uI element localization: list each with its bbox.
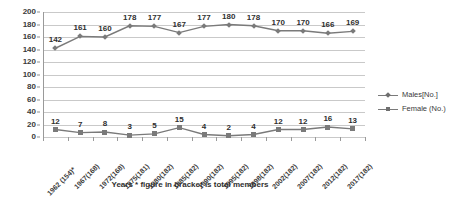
plot-area: 1421611601781771671771801781701701661691…	[43, 12, 365, 137]
data-label: 15	[175, 116, 184, 124]
data-label: 7	[78, 121, 82, 129]
data-label: 16	[323, 115, 332, 123]
line-chart: 020406080100120140160180200 142161160178…	[0, 0, 458, 198]
y-axis-tick-mark	[37, 24, 40, 25]
data-label: 13	[348, 117, 357, 125]
data-label: 180	[222, 13, 235, 21]
data-label: 170	[272, 19, 285, 27]
y-axis-tick-label: 40	[27, 108, 36, 116]
y-axis: 020406080100120140160180200	[0, 12, 40, 137]
data-label: 160	[98, 25, 111, 33]
y-axis-tick-label: 160	[23, 33, 36, 41]
legend-label-female: Female (No.)	[402, 105, 446, 113]
y-axis-tick-mark	[37, 37, 40, 38]
x-axis-labels: 1962 (154)*1967(168)1972(168)1975(181)19…	[43, 140, 373, 184]
data-labels: 1421611601781771671771801781701701661691…	[43, 12, 365, 137]
data-label: 142	[49, 36, 62, 44]
data-label: 8	[103, 120, 107, 128]
data-label: 166	[321, 21, 334, 29]
data-label: 167	[173, 21, 186, 29]
y-axis-tick-mark	[37, 87, 40, 88]
data-label: 4	[202, 123, 206, 131]
y-axis-tick-label: 180	[23, 21, 36, 29]
data-label: 177	[197, 14, 210, 22]
y-axis-tick-mark	[37, 124, 40, 125]
y-axis-tick-mark	[37, 12, 40, 13]
data-label: 2	[227, 124, 231, 132]
legend-marker-square-icon	[378, 106, 398, 113]
data-label: 12	[51, 118, 60, 126]
data-label: 12	[299, 118, 308, 126]
y-axis-tick-label: 20	[27, 121, 36, 129]
data-label: 178	[247, 14, 260, 22]
data-label: 178	[123, 14, 136, 22]
y-axis-tick-label: 200	[23, 8, 36, 16]
y-axis-tick-mark	[37, 49, 40, 50]
y-axis-tick-mark	[37, 112, 40, 113]
y-axis-tick-mark	[37, 62, 40, 63]
data-label: 5	[152, 122, 156, 130]
y-axis-tick-label: 100	[23, 71, 36, 79]
y-axis-tick-label: 60	[27, 96, 36, 104]
data-label: 12	[274, 118, 283, 126]
y-axis-tick-label: 80	[27, 83, 36, 91]
data-label: 3	[127, 123, 131, 131]
y-axis-tick-mark	[37, 99, 40, 100]
y-axis-tick-label: 0	[32, 133, 36, 141]
legend-item-female[interactable]: Female (No.)	[378, 102, 456, 116]
y-axis-tick-label: 120	[23, 58, 36, 66]
x-axis-title: Years * figure in bracket is total membe…	[0, 180, 380, 189]
data-label: 169	[346, 19, 359, 27]
data-label: 177	[148, 14, 161, 22]
legend-item-males[interactable]: Males[No.]	[378, 88, 456, 102]
data-label: 170	[296, 19, 309, 27]
y-axis-tick-mark	[37, 137, 40, 138]
gridline	[43, 137, 365, 138]
data-label: 161	[73, 24, 86, 32]
y-axis-tick-label: 140	[23, 46, 36, 54]
legend-label-males: Males[No.]	[402, 91, 438, 99]
data-label: 4	[251, 123, 255, 131]
y-axis-tick-mark	[37, 74, 40, 75]
chart-legend: Males[No.] Female (No.)	[378, 88, 456, 116]
legend-marker-diamond-icon	[378, 92, 398, 99]
